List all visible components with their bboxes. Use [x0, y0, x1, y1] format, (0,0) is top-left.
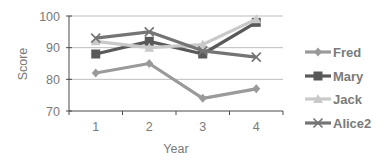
x-axis-ticks: 1234	[69, 111, 283, 134]
square-marker-icon	[91, 50, 100, 59]
y-tick-label: 70	[46, 105, 60, 119]
axes	[69, 16, 283, 111]
legend-label: Fred	[333, 45, 361, 60]
x-tick-label: 4	[253, 120, 260, 134]
diamond-marker-icon	[252, 84, 260, 93]
legend-label: Mary	[333, 69, 364, 84]
legend-item-mary: Mary	[305, 69, 364, 84]
series-line	[96, 19, 257, 48]
diamond-marker-icon	[314, 48, 322, 57]
x-axis-title: Year	[163, 142, 188, 156]
line-chart: 708090100 1234 Score Year FredMaryJackAl…	[0, 0, 383, 161]
legend-label: Alice2	[333, 116, 371, 131]
y-axis-title: Score	[16, 48, 30, 81]
series-line	[96, 22, 257, 54]
y-axis-ticks: 708090100	[39, 10, 72, 119]
legend: FredMaryJackAlice2	[305, 45, 371, 131]
series-fred	[92, 59, 261, 103]
series-mary	[91, 18, 261, 59]
x-tick-label: 1	[92, 120, 99, 134]
legend-label: Jack	[333, 92, 363, 107]
diamond-marker-icon	[92, 69, 100, 78]
y-tick-label: 90	[46, 41, 60, 55]
series-line	[96, 64, 257, 99]
series-lines	[91, 14, 262, 103]
y-tick-label: 80	[46, 73, 60, 87]
x-tick-label: 2	[146, 120, 153, 134]
square-marker-icon	[314, 72, 323, 81]
legend-item-jack: Jack	[305, 92, 363, 107]
legend-item-fred: Fred	[305, 45, 361, 60]
x-tick-label: 3	[199, 120, 206, 134]
legend-item-alice2: Alice2	[305, 116, 371, 131]
y-tick-label: 100	[39, 10, 60, 24]
